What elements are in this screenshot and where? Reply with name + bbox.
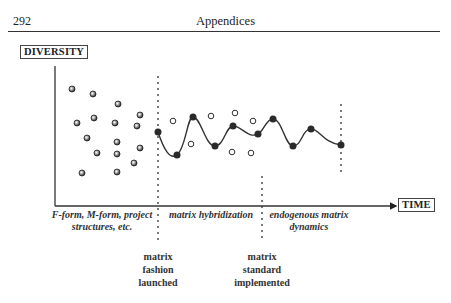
x-axis-label: TIME bbox=[398, 198, 435, 212]
phase-label-line: structures, etc. bbox=[44, 221, 160, 233]
event-matrix-standard: matrix standard implemented bbox=[227, 250, 297, 289]
event-label-line: implemented bbox=[227, 276, 297, 289]
event-label-line: standard bbox=[227, 263, 297, 276]
event-matrix-fashion: matrix fashion launched bbox=[128, 250, 188, 289]
phase-label-line: F-form, M-form, project bbox=[44, 209, 160, 221]
event-label-line: launched bbox=[128, 276, 188, 289]
hybrid-open-circles bbox=[170, 110, 256, 156]
phase-label-pre-matrix: F-form, M-form, project structures, etc. bbox=[44, 209, 160, 233]
phase-label-hybridization: matrix hybridization bbox=[163, 209, 259, 221]
phase-label-line: dynamics bbox=[264, 221, 354, 233]
phase-label-line: endogenous matrix bbox=[264, 209, 354, 221]
event-label-line: matrix bbox=[227, 250, 297, 263]
scatter-dots bbox=[69, 86, 143, 176]
phase-label-endogenous: endogenous matrix dynamics bbox=[264, 209, 354, 233]
event-label-line: fashion bbox=[128, 263, 188, 276]
phase-label-line: matrix hybridization bbox=[163, 209, 259, 221]
event-label-line: matrix bbox=[128, 250, 188, 263]
diversity-time-diagram bbox=[0, 0, 451, 303]
